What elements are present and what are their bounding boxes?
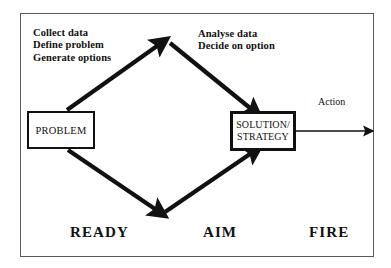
node-solution-strategy: SOLUTION/ STRATEGY [230,111,296,151]
note-analyse-line-1: Analyse data [198,28,275,40]
node-problem: PROBLEM [27,111,95,149]
node-solution-label-line-2: STRATEGY [237,131,289,143]
note-collect-line-3: Generate options [33,52,111,64]
note-collect-line-2: Define problem [33,39,111,51]
note-collect-data: Collect data Define problem Generate opt… [33,27,111,64]
node-solution-label-line-1: SOLUTION/ [236,119,290,131]
diagram-canvas: Collect data Define problem Generate opt… [0,0,391,268]
note-collect-line-1: Collect data [33,27,111,39]
phase-label-aim: AIM [203,224,237,241]
phase-label-ready: READY [70,224,129,241]
note-analyse-line-2: Decide on option [198,40,275,52]
arrow-problem-to-apex-bottom [68,150,155,209]
label-action: Action [318,96,345,107]
node-problem-label: PROBLEM [36,125,87,136]
phase-label-fire: FIRE [309,224,349,241]
note-analyse-data: Analyse data Decide on option [198,28,275,53]
arrow-apex-bottom-to-solution [165,154,250,212]
